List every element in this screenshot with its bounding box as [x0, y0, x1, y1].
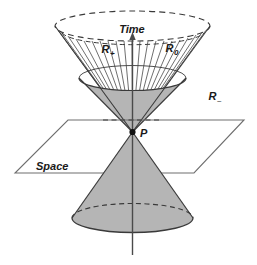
space-plane-label: Space — [36, 160, 68, 172]
origin-point-marker — [129, 129, 135, 135]
origin-point-label: P — [140, 127, 148, 139]
time-axis-label: Time — [119, 23, 144, 35]
light-cone-figure: Time R+ R0 R– Space P — [0, 0, 257, 265]
cone-outer-left-slant — [55, 26, 133, 132]
past-region-label: R– — [209, 90, 222, 105]
future-region-label: R+ — [101, 43, 114, 58]
light-cone-diagram: Time R+ R0 R– Space P — [0, 0, 257, 265]
